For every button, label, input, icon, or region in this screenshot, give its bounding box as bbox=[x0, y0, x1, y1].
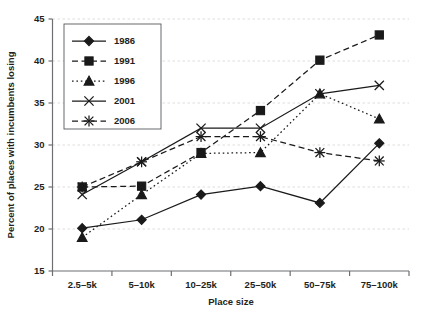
chart-container: 15202530354045 2.5–5k5–10k10–25k25–50k50… bbox=[0, 0, 421, 321]
chart-background bbox=[0, 0, 421, 321]
legend-label-1991: 1991 bbox=[114, 55, 136, 66]
y-axis-tick-label: 45 bbox=[34, 13, 45, 24]
data-point-asterisk bbox=[84, 116, 95, 127]
x-axis-tick-label: 25–50k bbox=[245, 279, 277, 290]
x-axis-tick-label: 5–10k bbox=[128, 279, 155, 290]
data-point-asterisk bbox=[255, 131, 266, 142]
data-point-asterisk bbox=[314, 147, 325, 158]
legend-label-2006: 2006 bbox=[114, 115, 135, 126]
y-axis-tick-label: 35 bbox=[34, 97, 45, 108]
legend-label-2001: 2001 bbox=[114, 95, 136, 106]
data-point-square bbox=[256, 106, 264, 114]
data-point-asterisk bbox=[77, 182, 88, 193]
legend-label-1986: 1986 bbox=[114, 35, 135, 46]
line-chart: 15202530354045 2.5–5k5–10k10–25k25–50k50… bbox=[0, 0, 421, 321]
x-axis-tick-label: 2.5–5k bbox=[68, 279, 98, 290]
data-point-square bbox=[375, 31, 383, 39]
y-axis-tick-label: 15 bbox=[34, 265, 45, 276]
x-axis-tick-label: 10–25k bbox=[185, 279, 217, 290]
legend-label-1996: 1996 bbox=[114, 75, 135, 86]
data-point-asterisk bbox=[196, 131, 207, 142]
x-axis-title: Place size bbox=[208, 296, 253, 307]
legend-border bbox=[64, 24, 161, 129]
data-point-square bbox=[316, 56, 324, 64]
data-point-square bbox=[85, 57, 93, 65]
y-axis-tick-label: 20 bbox=[34, 223, 45, 234]
y-axis-tick-label: 30 bbox=[34, 139, 45, 150]
data-point-asterisk bbox=[374, 156, 385, 167]
x-axis-tick-label: 50–75k bbox=[304, 279, 336, 290]
y-axis-title: Percent of places with incumbents losing bbox=[5, 51, 16, 238]
x-axis-tick-label: 75–100k bbox=[361, 279, 399, 290]
y-axis-tick-label: 40 bbox=[34, 55, 45, 66]
chart-legend: 19861991199620012006 bbox=[64, 24, 161, 129]
y-axis-tick-label: 25 bbox=[34, 181, 45, 192]
data-point-asterisk bbox=[136, 156, 147, 167]
